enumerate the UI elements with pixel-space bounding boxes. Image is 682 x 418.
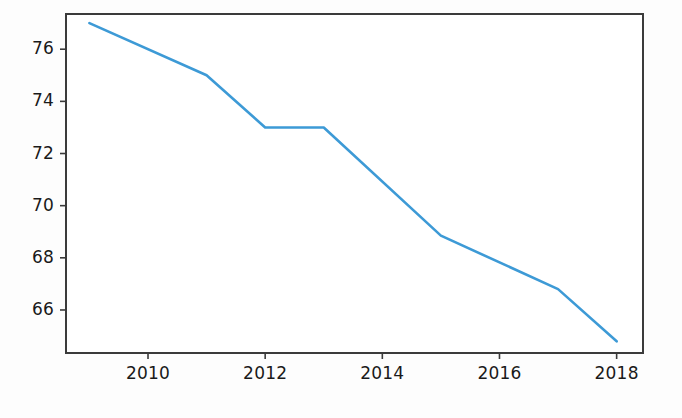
y-tick-label: 66 bbox=[0, 299, 54, 319]
y-tick-label: 68 bbox=[0, 247, 54, 267]
x-tick-label: 2012 bbox=[225, 363, 305, 383]
y-tick-label: 70 bbox=[0, 195, 54, 215]
x-tick-label: 2014 bbox=[342, 363, 422, 383]
x-tick-label: 2018 bbox=[577, 363, 657, 383]
x-tick-label: 2010 bbox=[108, 363, 188, 383]
plot-background bbox=[66, 14, 643, 353]
y-tick-label: 72 bbox=[0, 143, 54, 163]
chart-figure: 666870727476 20102012201420162018 bbox=[0, 0, 682, 418]
line-chart-canvas bbox=[0, 0, 682, 418]
y-tick-label: 74 bbox=[0, 90, 54, 110]
y-tick-label: 76 bbox=[0, 38, 54, 58]
x-tick-label: 2016 bbox=[459, 363, 539, 383]
